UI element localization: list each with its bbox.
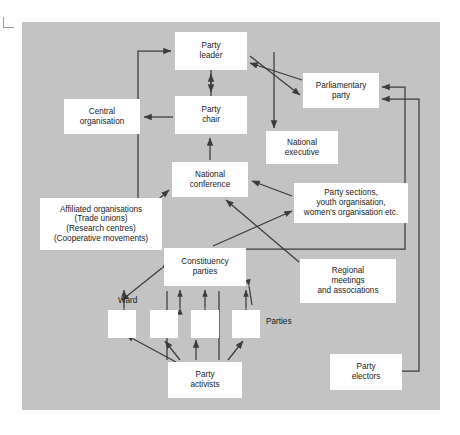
node-regional-meetings[interactable]: Regional meetings and associations [300,259,396,303]
label-parties: Parties [266,317,291,326]
node-party-chair[interactable]: Party chair [175,96,247,134]
page-corner-mark [3,17,14,28]
node-party-leader[interactable]: Party leader [175,32,247,70]
node-national-executive[interactable]: National executive [266,131,338,164]
node-central-organisation[interactable]: Central organisation [64,99,140,134]
node-parliamentary-party[interactable]: Parliamentary party [303,73,379,108]
node-ward-box-3[interactable] [191,310,219,338]
label-ward: Ward [118,296,137,305]
node-constituency-parties[interactable]: Constituency parties [164,248,246,286]
diagram-canvas: Party leader Parliamentary party Central… [0,0,460,435]
node-ward-box-1[interactable] [108,310,136,338]
node-national-conference[interactable]: National conference [172,162,248,197]
node-affiliated-organisations[interactable]: Affiliated organisations (Trade unions) … [40,198,162,250]
node-ward-box-4[interactable] [232,310,260,338]
node-party-sections[interactable]: Party sections, youth organisation, wome… [294,183,408,223]
node-ward-box-2[interactable] [150,310,178,338]
node-party-electors[interactable]: Party electors [330,354,402,390]
node-party-activists[interactable]: Party activists [168,362,242,398]
